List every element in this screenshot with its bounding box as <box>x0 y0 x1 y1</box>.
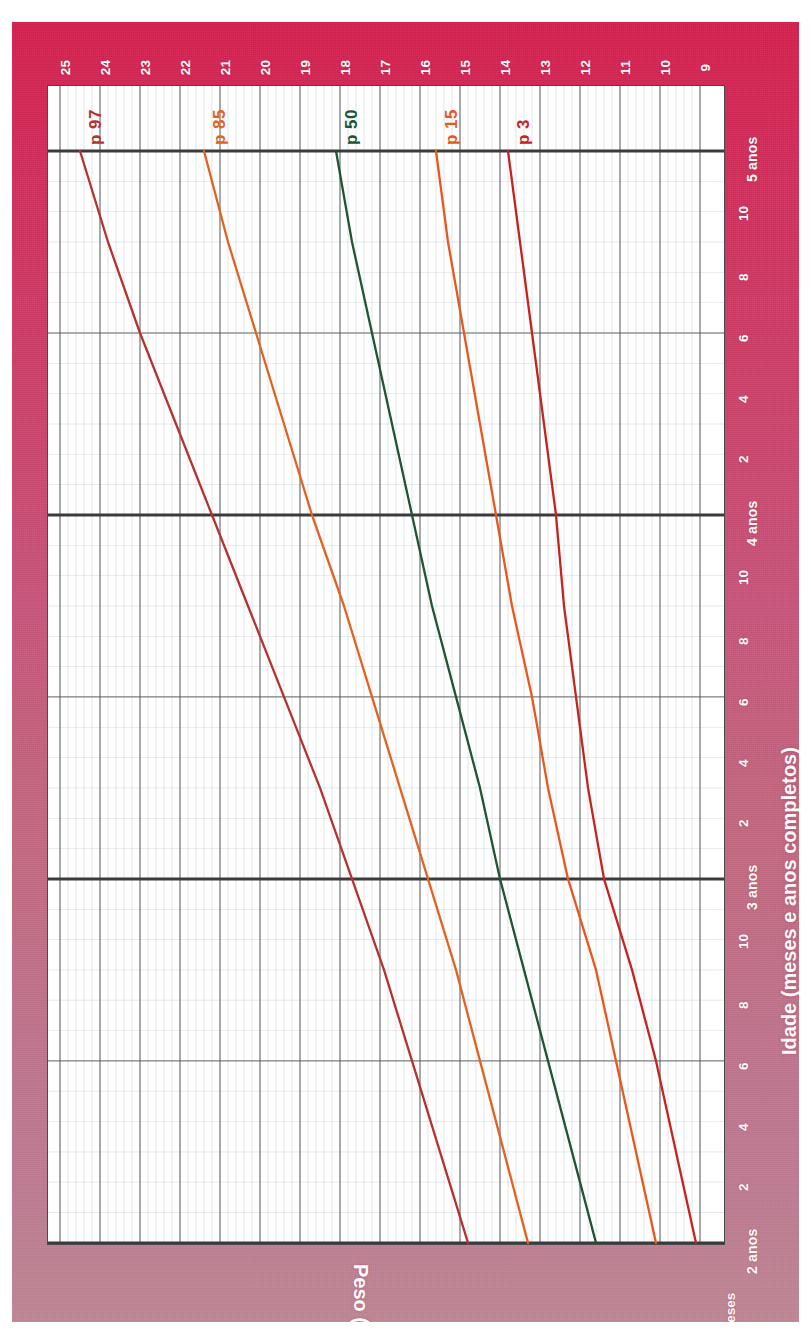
percentile-label-p15: p 15 <box>442 109 462 145</box>
weight-tick-13-top: 13 <box>538 53 553 83</box>
age-tick-5-anos: 5 anos <box>744 136 760 182</box>
age-month-tick-28: 4 <box>736 1123 751 1131</box>
age-month-tick-26: 2 <box>736 1184 751 1192</box>
weight-tick-11-top: 11 <box>618 53 633 83</box>
age-month-tick-58: 10 <box>736 206 751 221</box>
weight-tick-19-top: 19 <box>298 53 313 83</box>
curve-p50 <box>336 151 596 1243</box>
percentile-label-p85: p 85 <box>210 109 230 145</box>
percentile-label-p50: p 50 <box>342 109 362 145</box>
plot-area <box>47 85 725 1245</box>
weight-tick-25-top: 25 <box>58 53 73 83</box>
chart-card: 252423222120191817161514131211109 252423… <box>12 22 799 1322</box>
percentile-label-p3: p 3 <box>514 119 534 145</box>
curve-p3 <box>508 151 696 1243</box>
weight-tick-15-top: 15 <box>458 53 473 83</box>
age-month-tick-38: 2 <box>736 820 751 828</box>
x-axis-title: Idade (meses e anos completos) <box>778 747 799 1055</box>
age-tick-3-anos: 3 anos <box>744 864 760 910</box>
age-month-tick-56: 8 <box>736 274 751 282</box>
age-month-tick-54: 6 <box>736 334 751 342</box>
age-month-tick-30: 6 <box>736 1062 751 1070</box>
age-month-tick-50: 2 <box>736 456 751 464</box>
age-tick-4-anos: 4 anos <box>744 500 760 546</box>
age-month-tick-40: 4 <box>736 759 751 767</box>
weight-tick-12-top: 12 <box>578 53 593 83</box>
percentile-curves <box>48 86 724 1244</box>
weight-tick-21-top: 21 <box>218 53 233 83</box>
weight-tick-20-top: 20 <box>258 53 273 83</box>
curve-p15 <box>436 151 656 1243</box>
weight-tick-16-top: 16 <box>418 53 433 83</box>
months-unit-label: Meses <box>723 1293 738 1322</box>
weight-tick-24-top: 24 <box>98 53 113 83</box>
age-month-tick-44: 8 <box>736 638 751 646</box>
growth-chart-page: 252423222120191817161514131211109 252423… <box>0 0 811 1334</box>
age-month-tick-32: 8 <box>736 1002 751 1010</box>
age-month-tick-46: 10 <box>736 570 751 585</box>
weight-tick-18-top: 18 <box>338 53 353 83</box>
weight-tick-17-top: 17 <box>378 53 393 83</box>
weight-tick-9-top: 9 <box>698 53 713 83</box>
age-month-tick-34: 10 <box>736 934 751 949</box>
age-month-tick-52: 4 <box>736 395 751 403</box>
curve-p97 <box>80 151 468 1243</box>
weight-tick-22-top: 22 <box>178 53 193 83</box>
weight-tick-23-top: 23 <box>138 53 153 83</box>
weight-tick-10-top: 10 <box>658 53 673 83</box>
percentile-label-p97: p 97 <box>86 109 106 145</box>
curve-p85 <box>204 151 528 1243</box>
age-tick-2-anos: 2 anos <box>744 1228 760 1274</box>
y-axis-title: Peso (kg) <box>349 1264 372 1322</box>
age-month-tick-42: 6 <box>736 698 751 706</box>
weight-tick-14-top: 14 <box>498 53 513 83</box>
